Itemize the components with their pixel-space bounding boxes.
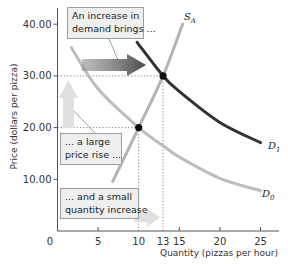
- x-tick-label: 15: [173, 236, 186, 247]
- curve-sa: [113, 24, 183, 181]
- curve-label-subscript: A: [190, 17, 196, 25]
- annotation-price-rise: ... a large price rise ...: [60, 133, 122, 165]
- pointer-line-price: [72, 109, 95, 133]
- pointer-line-demand: [109, 39, 118, 60]
- annotation-line: ... and a small: [65, 190, 134, 203]
- curve-label-sa: SA: [184, 11, 196, 25]
- annotation-line: quantity increase: [65, 203, 134, 216]
- x-tick-label: 5: [95, 236, 101, 247]
- x-axis-title: Quantity (pizzas per hour): [160, 248, 278, 258]
- x-tick-label: 10: [132, 236, 145, 247]
- y-tick-label: 30.00: [23, 70, 52, 81]
- annotation-line: ... a large: [65, 135, 117, 148]
- x-tick-label: 25: [254, 236, 267, 247]
- annotation-line: price rise ...: [65, 148, 117, 161]
- x-tick-label: 20: [214, 236, 227, 247]
- equilibrium-point: [135, 124, 142, 131]
- x-tick-label: 13: [157, 236, 170, 247]
- demand-shift-arrow-icon: [82, 54, 146, 76]
- curve-label-d0: D0: [261, 188, 275, 202]
- y-tick-label: 40.00: [23, 19, 52, 30]
- curve-label-subscript: 0: [270, 194, 275, 202]
- x-tick-label: 0: [47, 236, 53, 247]
- annotation-line: demand brings ...: [72, 22, 139, 35]
- y-tick-label: 20.00: [23, 122, 52, 133]
- curve-label-subscript: 1: [276, 146, 280, 154]
- annotation-line: An increase in: [72, 9, 139, 22]
- equilibrium-point: [159, 72, 166, 79]
- y-axis-title: Price (dollars per pizza): [9, 64, 19, 170]
- annotation-demand-increase: An increase in demand brings ...: [67, 7, 144, 39]
- annotation-quantity-increase: ... and a small quantity increase: [60, 188, 139, 219]
- chart-canvas: 10.0020.0030.0040.00051013152025Quantity…: [0, 0, 288, 264]
- curve-label-d1: D1: [267, 140, 281, 154]
- y-tick-label: 10.00: [23, 174, 52, 185]
- price-rise-arrow-icon: [59, 80, 78, 128]
